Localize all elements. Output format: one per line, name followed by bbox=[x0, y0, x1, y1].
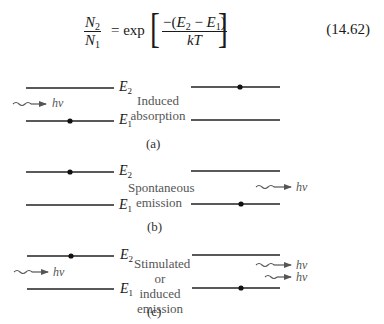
panel-b-description: Spontaneous emission bbox=[128, 180, 190, 210]
panel-c-outgoing-photon-2-label: hv bbox=[296, 270, 307, 285]
panel-b-outgoing-photon-label: hv bbox=[296, 180, 307, 195]
panel-c-electron-after bbox=[238, 285, 243, 290]
panel-b-outgoing-photon-wave bbox=[256, 186, 274, 189]
panel-b-upper-level-label: E2 bbox=[119, 163, 132, 179]
panel-a-electron-after bbox=[237, 84, 242, 89]
panel-c-incoming-photon-label: hv bbox=[53, 265, 64, 280]
panel-c-caption: (c) bbox=[147, 304, 161, 320]
panel-c-outgoing-photon-2-wave bbox=[265, 276, 277, 279]
panel-a-electron-before bbox=[67, 118, 72, 123]
panel-b-electron-after bbox=[238, 201, 243, 206]
panel-a-incoming-photon-label: hv bbox=[52, 96, 63, 111]
panel-b-caption: (b) bbox=[147, 219, 162, 235]
panel-b-electron-before bbox=[67, 169, 72, 174]
panel-c-upper-level-label: E2 bbox=[120, 247, 133, 263]
panel-a-incoming-photon-wave bbox=[13, 103, 31, 106]
panel-c-electron-before bbox=[68, 253, 73, 258]
panel-c-incoming-photon-wave bbox=[14, 271, 32, 274]
panel-c-outgoing-photon-1-wave bbox=[256, 264, 274, 267]
panel-c-lower-level-label: E1 bbox=[120, 281, 133, 297]
panel-a-caption: (a) bbox=[146, 136, 160, 152]
panel-a-description: Induced absorption bbox=[130, 93, 186, 123]
